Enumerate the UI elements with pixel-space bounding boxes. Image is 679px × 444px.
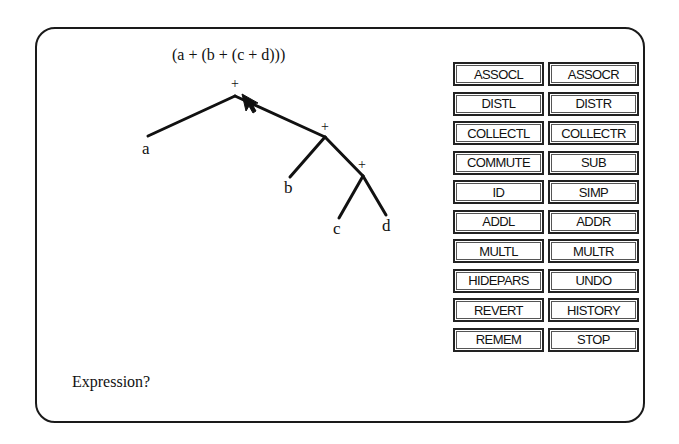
tree-edge (290, 137, 325, 177)
addr-button[interactable]: ADDR (548, 210, 639, 234)
sub-button[interactable]: SUB (548, 151, 639, 175)
multl-button[interactable]: MULTL (453, 239, 544, 263)
remem-button[interactable]: REMEM (453, 328, 544, 352)
tree-edge (363, 176, 386, 215)
arrow-cursor-icon (242, 94, 258, 113)
addl-button[interactable]: ADDL (453, 210, 544, 234)
tree-leaf-d[interactable]: d (382, 216, 391, 236)
collectl-button[interactable]: COLLECTL (453, 121, 544, 145)
multr-button[interactable]: MULTR (548, 239, 639, 263)
simp-button[interactable]: SIMP (548, 180, 639, 204)
revert-button[interactable]: REVERT (453, 298, 544, 322)
tree-edge (148, 96, 235, 136)
tree-operator-mid[interactable]: + (321, 119, 329, 135)
stop-button[interactable]: STOP (548, 328, 639, 352)
distr-button[interactable]: DISTR (548, 92, 639, 116)
expression-prompt: Expression? (72, 373, 150, 391)
tree-edge (339, 176, 363, 218)
tree-operator-inner[interactable]: + (358, 157, 366, 173)
hidepars-button[interactable]: HIDEPARS (453, 269, 544, 293)
id-button[interactable]: ID (453, 180, 544, 204)
tree-operator-root[interactable]: + (231, 76, 239, 92)
undo-button[interactable]: UNDO (548, 269, 639, 293)
assocr-button[interactable]: ASSOCR (548, 62, 639, 86)
collectr-button[interactable]: COLLECTR (548, 121, 639, 145)
assocl-button[interactable]: ASSOCL (453, 62, 544, 86)
tree-leaf-c[interactable]: c (333, 219, 341, 239)
command-button-grid: ASSOCL ASSOCR DISTL DISTR COLLECTL COLLE… (453, 62, 639, 352)
history-button[interactable]: HISTORY (548, 298, 639, 322)
distl-button[interactable]: DISTL (453, 92, 544, 116)
tree-leaf-a[interactable]: a (142, 139, 150, 159)
tree-leaf-b[interactable]: b (284, 178, 293, 198)
commute-button[interactable]: COMMUTE (453, 151, 544, 175)
